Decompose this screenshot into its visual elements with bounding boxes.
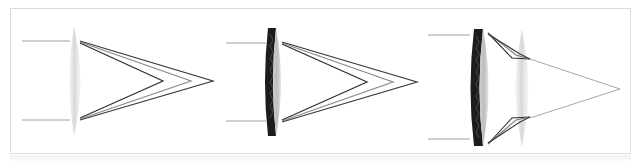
convex-lens (70, 27, 80, 135)
panel-doublet (226, 28, 417, 136)
ray-long-focus (80, 41, 213, 120)
ray-mid-focus (80, 42, 191, 119)
ray-short-focus (282, 44, 367, 120)
ray-long-focus (282, 42, 417, 122)
focused-ray (530, 59, 620, 118)
secondary-convex-lens (516, 30, 528, 146)
panel-corrected-system (428, 29, 620, 146)
ray-short-focus (80, 43, 163, 118)
ray-mid-focus (282, 43, 393, 121)
optics-diagram (0, 0, 636, 164)
panel-single-lens (22, 27, 213, 135)
